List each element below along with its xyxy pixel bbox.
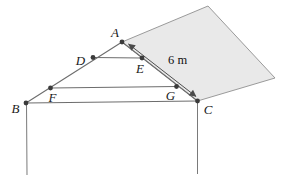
point-label-f: F bbox=[48, 90, 58, 105]
point-label-b: B bbox=[12, 101, 20, 116]
rafter-ab-line bbox=[26, 42, 122, 103]
point-dot-d bbox=[91, 55, 96, 60]
point-label-e: E bbox=[135, 61, 144, 76]
measurement-label: 6 m bbox=[168, 53, 187, 67]
point-label-a: A bbox=[110, 25, 119, 40]
geometry-figure: A B C D E F G 6 m bbox=[0, 0, 286, 180]
point-dot-c bbox=[195, 99, 200, 104]
wall-left-line bbox=[27, 103, 28, 175]
point-dot-b bbox=[24, 101, 29, 106]
strut-de-line bbox=[93, 58, 142, 59]
strut-fg-line bbox=[51, 87, 177, 89]
roof-diagram-canvas: A B C D E F G 6 m bbox=[0, 0, 286, 180]
point-dot-a bbox=[120, 40, 125, 45]
point-label-d: D bbox=[75, 53, 86, 68]
point-label-c: C bbox=[204, 102, 213, 117]
point-label-g: G bbox=[166, 88, 176, 103]
